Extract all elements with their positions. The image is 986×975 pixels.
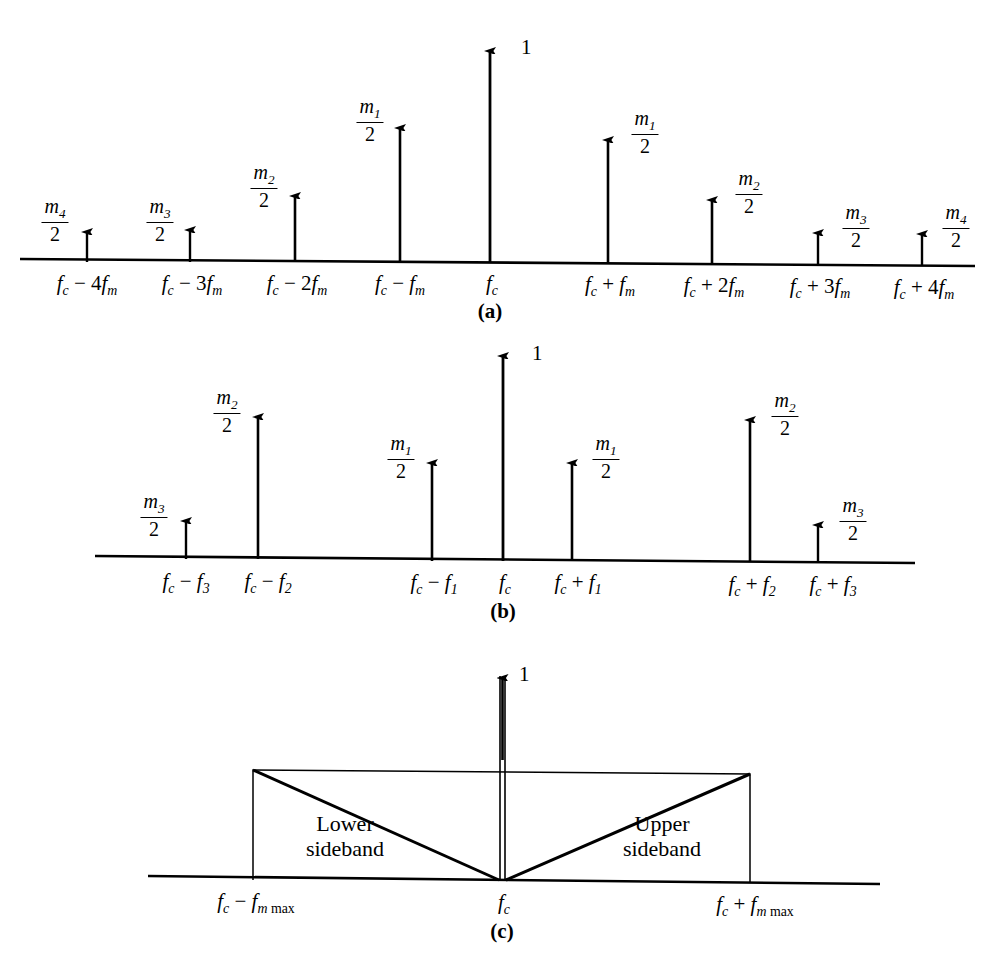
panel-a-amplitude-m1-right: m1 2	[631, 108, 658, 157]
panel-a-amplitude-m4-left: m4 2	[41, 196, 68, 245]
panel-b-tick-fc-minus-f1: fc − f1	[410, 571, 457, 598]
panel-a-carrier-amplitude-label: 1	[521, 36, 532, 58]
panel-a-tick-fc-minus-fm: fc − fm	[375, 272, 425, 299]
panel-c-plot	[148, 676, 880, 884]
panel-a-amplitude-m2-right: m2 2	[735, 168, 762, 217]
panel-a-axis	[20, 259, 975, 266]
panel-c-tick-fc-minus-fmmax: fc − fm max	[217, 890, 295, 917]
panel-b-tick-fc-plus-f2: fc + f2	[728, 573, 775, 600]
panel-b-tick-fc-plus-f1: fc + f1	[554, 571, 601, 598]
panel-b-amplitude-m2-right: m2 2	[771, 390, 798, 439]
panel-c-lower-sideband-label: Lower sideband	[306, 812, 384, 861]
panel-b-amplitude-m1-left: m1 2	[387, 433, 414, 482]
panel-b-carrier-amplitude-label: 1	[532, 342, 543, 364]
panel-a-tick-fc: fc	[486, 272, 498, 299]
panel-c-tick-fc: fc	[498, 891, 510, 918]
panel-a-tick-fc-plus-4fm: fc + 4fm	[894, 276, 955, 303]
panel-c-carrier-amplitude-label: 1	[519, 663, 530, 685]
panel-c-tick-fc-plus-fmmax: fc + fm max	[716, 893, 794, 920]
panel-a-amplitude-m4-right: m4 2	[942, 202, 969, 251]
panel-b-tick-fc-minus-f3: fc − f3	[162, 570, 209, 597]
panel-a-amplitude-m2-left: m2 2	[250, 162, 277, 211]
panel-b-amplitude-m3-left: m3 2	[140, 491, 167, 540]
panel-b-caption: (b)	[490, 600, 516, 622]
panel-a-caption: (a)	[478, 300, 503, 322]
panel-a-amplitude-m1-left: m1 2	[356, 96, 383, 145]
figure-vector-layer	[0, 0, 986, 975]
panel-a-tick-fc-minus-2fm: fc − 2fm	[267, 272, 328, 299]
panel-b-axis	[95, 556, 915, 563]
panel-a-amplitude-m3-right: m3 2	[842, 202, 869, 251]
panel-a-tick-fc-plus-fm: fc + fm	[585, 273, 635, 300]
panel-b-amplitude-m2-left: m2 2	[213, 387, 240, 436]
panel-b-amplitude-m1-right: m1 2	[592, 433, 619, 482]
panel-a-tick-fc-plus-3fm: fc + 3fm	[790, 275, 851, 302]
panel-c-axis	[148, 876, 880, 884]
panel-b-tick-fc-plus-f3: fc + f3	[809, 573, 856, 600]
panel-b-amplitude-m3-right: m3 2	[839, 495, 866, 544]
am-spectrum-figure: 1 m4 2 m3 2 m2 2 m1 2 m1 2 m2 2 m3 2 m4 …	[0, 0, 986, 975]
panel-a-tick-fc-plus-2fm: fc + 2fm	[684, 274, 745, 301]
panel-a-tick-fc-minus-3fm: fc − 3fm	[162, 272, 223, 299]
panel-a-amplitude-m3-left: m3 2	[146, 196, 173, 245]
panel-b-tick-fc: fc	[499, 571, 511, 598]
panel-c-upper-sideband-label: Upper sideband	[623, 812, 701, 861]
panel-a-tick-fc-minus-4fm: fc − 4fm	[57, 272, 118, 299]
panel-b-tick-fc-minus-f2: fc − f2	[244, 570, 291, 597]
panel-c-caption: (c)	[490, 920, 513, 942]
